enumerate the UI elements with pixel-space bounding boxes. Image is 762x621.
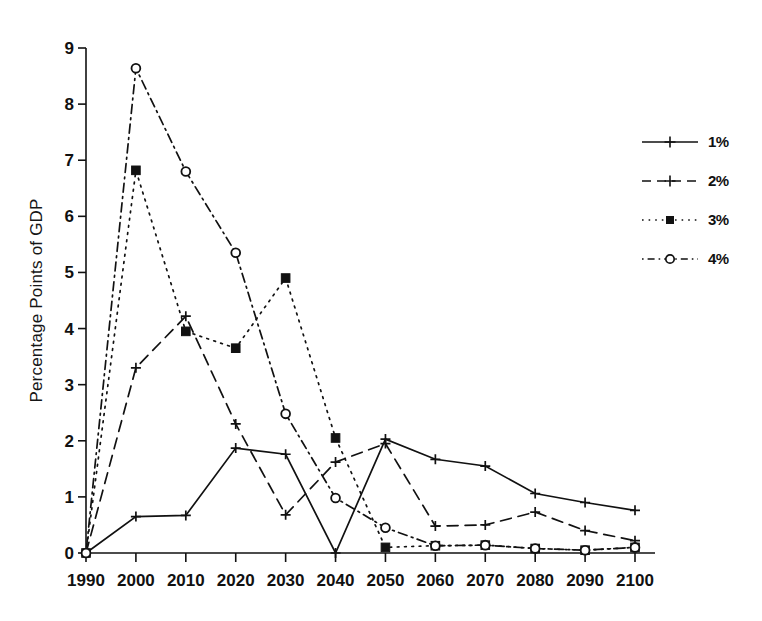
legend-item[interactable]: 4% (640, 250, 758, 289)
data-point-marker (630, 505, 640, 515)
x-tick-label: 2100 (607, 571, 663, 591)
data-point-marker (231, 344, 240, 353)
x-tick-label: 2010 (158, 571, 214, 591)
data-point-marker (281, 274, 290, 283)
y-tick-label: 9 (50, 39, 74, 59)
x-tick-label: 2040 (308, 571, 364, 591)
data-point-marker (381, 543, 390, 552)
y-tick-label: 5 (50, 263, 74, 283)
data-point-marker (480, 461, 490, 471)
data-point-marker (481, 541, 490, 550)
x-tick-label: 2060 (407, 571, 463, 591)
data-point-marker (132, 64, 141, 73)
x-tick-label: 2030 (258, 571, 314, 591)
data-point-marker (431, 541, 440, 550)
data-point-marker (430, 454, 440, 464)
plot-area (0, 0, 762, 621)
x-axis-ticks (86, 553, 635, 562)
data-point-marker (181, 167, 190, 176)
data-point-marker (381, 523, 390, 532)
chart-figure: Percentage Points of GDP 0123456789 1990… (0, 0, 762, 621)
legend-swatch-series-1 (640, 133, 700, 151)
y-tick-label: 1 (50, 488, 74, 508)
data-point-marker (82, 549, 91, 558)
data-point-marker (281, 449, 291, 459)
legend-item[interactable]: 1% (640, 133, 758, 172)
x-tick-label: 2050 (357, 571, 413, 591)
x-tick-label: 2080 (507, 571, 563, 591)
data-point-marker (331, 457, 341, 467)
legend-label-series-4: 4% (708, 250, 729, 268)
legend-swatch-series-4 (640, 250, 700, 268)
data-point-marker (331, 494, 340, 503)
data-point-marker (580, 498, 590, 508)
data-point-marker (331, 548, 341, 558)
data-point-marker (531, 544, 540, 553)
legend-item[interactable]: 2% (640, 172, 758, 211)
x-tick-label: 2020 (208, 571, 264, 591)
series-line-4 (82, 64, 640, 558)
y-axis-ticks (78, 48, 86, 553)
data-point-marker (231, 248, 240, 257)
data-point-marker (331, 434, 340, 443)
y-tick-label: 7 (50, 151, 74, 171)
data-point-marker (581, 546, 590, 555)
data-point-marker (430, 521, 440, 531)
axis-lines (86, 48, 655, 553)
legend-swatch-series-3 (640, 211, 700, 229)
series-line-3 (82, 166, 640, 557)
legend-label-series-3: 3% (708, 211, 729, 229)
data-point-marker (231, 419, 241, 429)
data-point-marker (530, 489, 540, 499)
legend-label-series-2: 2% (708, 172, 729, 190)
data-point-marker (631, 543, 640, 552)
y-tick-label: 2 (50, 432, 74, 452)
y-tick-label: 0 (50, 544, 74, 564)
x-tick-label: 2070 (457, 571, 513, 591)
legend-item[interactable]: 3% (640, 211, 758, 250)
y-tick-label: 6 (50, 207, 74, 227)
data-point-marker (131, 363, 141, 373)
chart-legend: 1% 2% 3% 4% (640, 133, 758, 289)
y-tick-label: 3 (50, 376, 74, 396)
data-point-marker (281, 409, 290, 418)
legend-swatch-series-2 (640, 172, 700, 190)
legend-label-series-1: 1% (708, 133, 729, 151)
x-tick-label: 2090 (557, 571, 613, 591)
y-tick-label: 4 (50, 320, 74, 340)
series-line-2 (81, 311, 640, 558)
y-axis-title: Percentage Points of GDP (22, 48, 52, 553)
data-point-marker (580, 526, 590, 536)
data-point-marker (182, 327, 191, 336)
data-point-marker (132, 166, 141, 175)
x-tick-label: 2000 (108, 571, 164, 591)
data-point-marker (480, 520, 490, 530)
data-point-marker (530, 507, 540, 517)
x-tick-label: 1990 (58, 571, 114, 591)
y-tick-label: 8 (50, 95, 74, 115)
